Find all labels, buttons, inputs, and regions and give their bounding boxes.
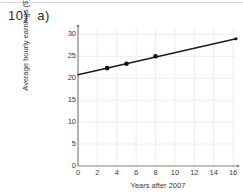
x-tick-label: 0 — [70, 169, 86, 177]
gridlines — [78, 28, 236, 166]
x-tick-label: 4 — [109, 169, 125, 177]
y-tick-label: 20 — [60, 74, 76, 82]
data-point — [153, 54, 158, 59]
data-point — [234, 37, 237, 40]
y-tick-label: 25 — [60, 52, 76, 60]
x-axis-title: Years after 2007 — [78, 181, 238, 190]
y-tick-label: 30 — [60, 30, 76, 38]
y-tick-label: 15 — [60, 96, 76, 104]
worksheet-page: 10)a) 051015202530 0246810121416 Average… — [0, 0, 243, 195]
data-point — [124, 61, 129, 66]
x-tick-label: 2 — [89, 169, 105, 177]
y-tick-label: 5 — [60, 140, 76, 148]
y-tick-label: 10 — [60, 118, 76, 126]
axis-lines — [77, 25, 240, 168]
y-axis-tick-labels: 051015202530 — [58, 0, 76, 195]
data-point — [105, 66, 110, 71]
scatter-plot-chart: 051015202530 0246810121416 Average hourl… — [0, 0, 243, 195]
x-tick-label: 14 — [206, 169, 222, 177]
y-axis-title: Average hourly earnings ($) — [21, 0, 30, 120]
x-tick-label: 8 — [148, 169, 164, 177]
x-tick-label: 6 — [128, 169, 144, 177]
x-tick-label: 10 — [167, 169, 183, 177]
plot-area — [0, 0, 243, 195]
x-tick-label: 12 — [186, 169, 202, 177]
x-tick-label: 16 — [225, 169, 241, 177]
x-axis-tick-labels: 0246810121416 — [0, 169, 243, 179]
